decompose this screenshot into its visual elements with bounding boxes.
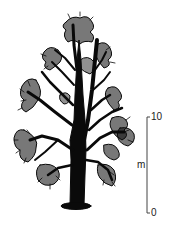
scale-unit-label: m: [137, 160, 145, 170]
scale-top-label: 10: [151, 112, 162, 122]
scale-bottom-label: 0: [151, 208, 157, 218]
